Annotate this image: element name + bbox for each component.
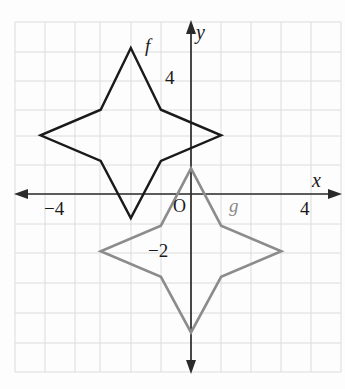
x-axis-arrow-right bbox=[328, 189, 342, 199]
y-axis bbox=[186, 20, 196, 374]
x-axis-arrow-left bbox=[14, 189, 28, 199]
x-tick-label-neg4: −4 bbox=[44, 199, 64, 218]
x-axis-label: x bbox=[312, 170, 321, 190]
curve-label-f: f bbox=[145, 36, 150, 55]
y-tick-label-neg2: −2 bbox=[148, 241, 168, 260]
coordinate-plane bbox=[0, 0, 345, 389]
y-tick-label-4: 4 bbox=[165, 68, 175, 87]
curve-label-g: g bbox=[229, 196, 239, 215]
origin-label: O bbox=[173, 197, 186, 215]
y-axis-label: y bbox=[196, 22, 205, 42]
x-tick-label-4: 4 bbox=[300, 199, 310, 218]
graph-figure: y x 4 4 −4 −2 O f g bbox=[0, 0, 345, 389]
